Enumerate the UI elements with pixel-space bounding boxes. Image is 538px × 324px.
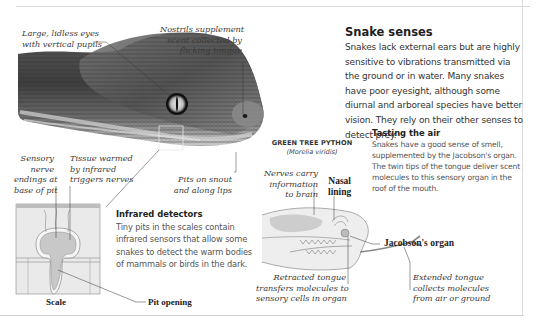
callout-nostrils: Nostrils supplement scent collected by f… bbox=[160, 24, 242, 56]
book-page: Large, lidless eyes with vertical pupils… bbox=[0, 0, 538, 324]
callout-line: Tissue warmed bbox=[70, 153, 136, 164]
callout-tissue-warmed: Tissue warmed by infrared triggers nerve… bbox=[70, 153, 136, 185]
callout-sensory-nerve: Sensory nerve endings at base of pit bbox=[14, 153, 54, 195]
tasting-heading: Tasting the air bbox=[372, 128, 440, 138]
species-latin-name: (Morelia viridis) bbox=[262, 148, 362, 156]
label-line: lining bbox=[328, 187, 351, 198]
species-caption: GREEN TREE PYTHON (Morelia viridis) bbox=[262, 139, 362, 156]
callout-nostrils-line-2: scent collected by bbox=[160, 35, 242, 46]
callout-line: endings at bbox=[14, 174, 54, 185]
callout-nerves-brain: Nerves carry information to brain bbox=[262, 168, 318, 200]
callout-line: by infrared bbox=[70, 164, 136, 175]
label-scale: Scale bbox=[46, 297, 66, 307]
callout-line: Retracted tongue bbox=[256, 272, 346, 283]
callout-line: Extended tongue bbox=[413, 272, 513, 283]
callout-line: sensory cells in organ bbox=[256, 293, 346, 304]
callout-line: transfers molecules to bbox=[256, 283, 346, 294]
callout-line: nerve bbox=[14, 164, 54, 175]
label-line: Nasal bbox=[328, 176, 351, 187]
page-title: Snake senses bbox=[345, 25, 433, 39]
callout-line: to brain bbox=[262, 189, 318, 200]
label-jacobsons-organ: Jacobson's organ bbox=[384, 238, 454, 248]
callout-retracted-tongue: Retracted tongue transfers molecules to … bbox=[256, 272, 346, 304]
intro-paragraph: Snakes lack external ears but are highly… bbox=[345, 40, 523, 142]
infrared-heading: Infrared detectors bbox=[116, 209, 202, 219]
infrared-paragraph: Tiny pits in the scales contain infrared… bbox=[116, 221, 256, 271]
callout-extended-tongue: Extended tongue collects molecules from … bbox=[413, 272, 513, 304]
label-nasal-lining: Nasal lining bbox=[328, 176, 351, 198]
callout-line: triggers nerves bbox=[70, 174, 136, 185]
callout-nostrils-line-1: Nostrils supplement bbox=[160, 24, 242, 35]
callout-line: collects molecules bbox=[413, 283, 513, 294]
callout-eyes-line-1: Large, lidless eyes bbox=[22, 28, 96, 39]
callout-line: base of pit bbox=[14, 185, 54, 196]
callout-eyes-line-2: with vertical pupils bbox=[22, 39, 96, 50]
callout-nostrils-line-3: flicking tongue bbox=[160, 45, 242, 56]
label-pit-opening: Pit opening bbox=[148, 297, 192, 307]
callout-eyes: Large, lidless eyes with vertical pupils bbox=[22, 28, 96, 49]
callout-line: Nerves carry bbox=[262, 168, 318, 179]
callout-pits-line-1: Pits on snout bbox=[170, 174, 232, 185]
callout-pits-line-2: and along lips bbox=[170, 185, 232, 196]
nostril bbox=[243, 114, 248, 118]
species-common-name: GREEN TREE PYTHON bbox=[262, 139, 362, 147]
tasting-paragraph: Snakes have a good sense of smell, suppl… bbox=[372, 139, 520, 194]
callout-line: information bbox=[262, 179, 318, 190]
callout-line: from air or ground bbox=[413, 293, 513, 304]
callout-line: Sensory bbox=[14, 153, 54, 164]
callout-pits: Pits on snout and along lips bbox=[170, 174, 232, 195]
